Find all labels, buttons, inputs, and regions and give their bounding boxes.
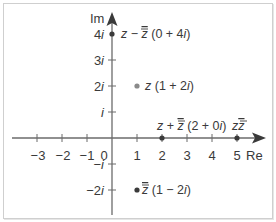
conjugate-bars: [141, 29, 247, 185]
x-tick-label: 4: [208, 148, 215, 163]
x-tick-label: 5: [233, 148, 240, 163]
point-label-z: z (1 + 2i): [144, 79, 194, 93]
point-z-zbar: [234, 135, 239, 140]
point-z-plus-zbar: [159, 135, 164, 140]
x-tick-labels: −3 −2 −1 0 1 2 3 4 5: [31, 148, 241, 163]
x-tick-label: −3: [31, 148, 46, 163]
x-tick-label: 2: [158, 148, 165, 163]
y-tick-label: i: [101, 105, 105, 120]
x-tick-label: −2: [56, 148, 71, 163]
y-tick-labels: 4i 3i 2i i −i −2i: [86, 27, 105, 198]
y-tick-label: 3i: [94, 53, 105, 68]
y-tick-label: −2i: [86, 183, 105, 198]
y-tick-label: 4i: [94, 27, 105, 42]
x-tick-label: 1: [133, 148, 140, 163]
point-z-minus-zbar: [109, 31, 114, 36]
point-label-z-minus-zbar: z − z (0 + 4i): [120, 27, 191, 41]
imaginary-axis-label: Im: [90, 11, 104, 26]
y-tick-label: 2i: [94, 79, 105, 94]
point-z: [134, 83, 139, 88]
complex-plane-diagram: Re Im −3 −2 −1 0 1 2 3 4 5 4i 3i 2i i −i…: [0, 0, 276, 222]
x-tick-label: 3: [183, 148, 190, 163]
point-zbar: [134, 187, 139, 192]
y-tick-label: −i: [94, 157, 106, 172]
axes: [12, 12, 266, 215]
points: z − z (0 + 4i) z (1 + 2i) z + z (2 + 0i)…: [109, 27, 245, 197]
real-axis-label: Re: [246, 148, 263, 163]
x-tick-label: −1: [80, 148, 95, 163]
point-label-z-plus-zbar: z + z (2 + 0i): [156, 119, 227, 133]
